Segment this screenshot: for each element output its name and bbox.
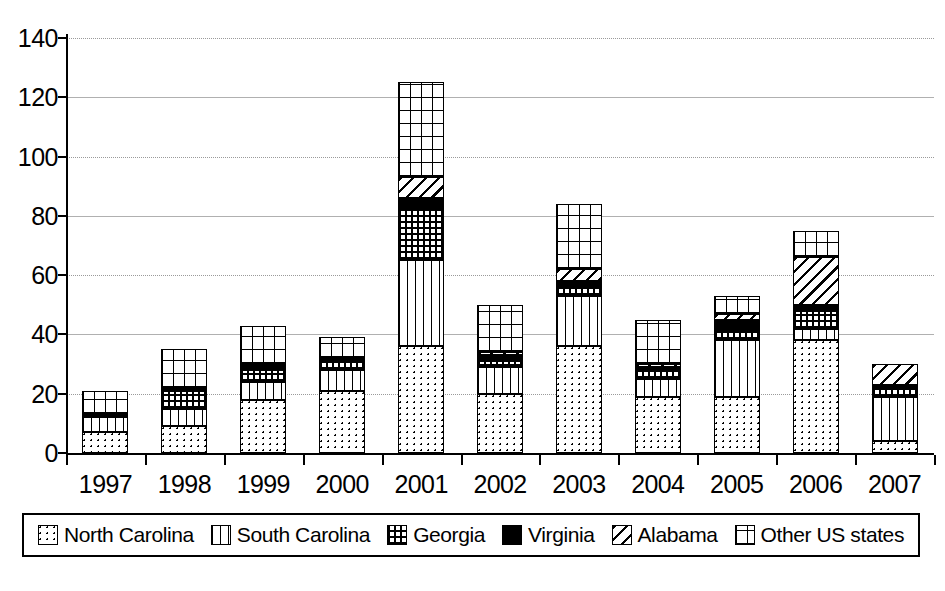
bar-segment-2002-south-carolina[interactable] bbox=[477, 367, 523, 394]
bar-segment-2001-south-carolina[interactable] bbox=[398, 260, 444, 346]
y-axis-label-140: 140 bbox=[18, 24, 58, 53]
bar-segment-2003-north-carolina[interactable] bbox=[556, 346, 602, 453]
bar-segment-1999-other-us-states[interactable] bbox=[240, 326, 286, 365]
legend-item-south-carolina[interactable]: South Carolina bbox=[211, 523, 370, 547]
bar-segment-1999-virginia[interactable] bbox=[240, 364, 286, 370]
bar-segment-2000-other-us-states[interactable] bbox=[319, 337, 365, 358]
y-axis-label-20: 20 bbox=[31, 379, 58, 408]
legend-label: Georgia bbox=[413, 523, 485, 547]
bar-segment-1997-north-carolina[interactable] bbox=[82, 432, 128, 453]
bar-segment-2005-north-carolina[interactable] bbox=[714, 397, 760, 453]
bar-segment-2002-other-us-states[interactable] bbox=[477, 305, 523, 352]
x-axis-label-2005: 2005 bbox=[710, 470, 763, 499]
bar-group-2002[interactable] bbox=[477, 305, 523, 453]
legend-item-virginia[interactable]: Virginia bbox=[502, 523, 594, 547]
x-axis-tick-1 bbox=[145, 455, 147, 465]
bar-segment-2004-north-carolina[interactable] bbox=[635, 397, 681, 453]
x-axis-label-2001: 2001 bbox=[394, 470, 447, 499]
bar-segment-1998-georgia[interactable] bbox=[161, 391, 207, 409]
y-axis-tick-60 bbox=[58, 274, 67, 276]
bar-segment-2004-other-us-states[interactable] bbox=[635, 320, 681, 364]
bar-segment-2002-north-carolina[interactable] bbox=[477, 394, 523, 453]
bar-segment-2002-virginia[interactable] bbox=[477, 355, 523, 361]
legend-item-other-us-states[interactable]: Other US states bbox=[735, 523, 904, 547]
bar-segment-2006-other-us-states[interactable] bbox=[793, 231, 839, 258]
bar-group-2006[interactable] bbox=[793, 231, 839, 453]
bar-segment-2005-south-carolina[interactable] bbox=[714, 340, 760, 396]
bar-group-2005[interactable] bbox=[714, 296, 760, 453]
y-axis-label-80: 80 bbox=[31, 201, 58, 230]
bar-segment-1999-north-carolina[interactable] bbox=[240, 400, 286, 453]
bar-segment-1997-virginia[interactable] bbox=[82, 414, 128, 417]
bar-segment-1998-north-carolina[interactable] bbox=[161, 426, 207, 453]
bar-segment-1998-other-us-states[interactable] bbox=[161, 349, 207, 388]
bar-segment-2003-other-us-states[interactable] bbox=[556, 204, 602, 269]
bar-segment-2007-georgia[interactable] bbox=[872, 388, 918, 397]
legend-item-alabama[interactable]: Alabama bbox=[612, 523, 718, 547]
bar-segment-2003-south-carolina[interactable] bbox=[556, 296, 602, 346]
bar-series-container bbox=[66, 38, 934, 453]
bar-segment-1997-other-us-states[interactable] bbox=[82, 391, 128, 415]
bar-group-2004[interactable] bbox=[635, 320, 681, 453]
bar-segment-2003-virginia[interactable] bbox=[556, 281, 602, 287]
y-axis-tick-120 bbox=[58, 96, 67, 98]
bar-segment-1998-virginia[interactable] bbox=[161, 388, 207, 391]
bar-segment-2006-alabama[interactable] bbox=[793, 257, 839, 304]
x-axis-tick-8 bbox=[697, 455, 699, 465]
x-axis-label-2002: 2002 bbox=[473, 470, 526, 499]
bar-segment-2006-south-carolina[interactable] bbox=[793, 329, 839, 341]
x-axis-label-1997: 1997 bbox=[79, 470, 132, 499]
bar-segment-2000-georgia[interactable] bbox=[319, 361, 365, 370]
bar-segment-2004-alabama[interactable] bbox=[635, 364, 681, 367]
bar-segment-2004-georgia[interactable] bbox=[635, 370, 681, 379]
bar-segment-2003-georgia[interactable] bbox=[556, 287, 602, 296]
bar-segment-1999-south-carolina[interactable] bbox=[240, 382, 286, 400]
legend-item-georgia[interactable]: Georgia bbox=[387, 523, 485, 547]
bar-group-2007[interactable] bbox=[872, 364, 918, 453]
bar-segment-2000-north-carolina[interactable] bbox=[319, 391, 365, 453]
stacked-bar-chart: 020406080100120140 199719981999200020012… bbox=[0, 0, 945, 470]
bar-segment-2004-south-carolina[interactable] bbox=[635, 379, 681, 397]
x-axis-tick-9 bbox=[776, 455, 778, 465]
x-axis-tick-4 bbox=[382, 455, 384, 465]
bar-segment-2001-georgia[interactable] bbox=[398, 210, 444, 260]
bar-segment-2001-alabama[interactable] bbox=[398, 177, 444, 198]
bar-segment-2001-north-carolina[interactable] bbox=[398, 346, 444, 453]
x-axis-label-2003: 2003 bbox=[552, 470, 605, 499]
y-axis-tick-100 bbox=[58, 156, 67, 158]
bar-segment-2005-other-us-states[interactable] bbox=[714, 296, 760, 314]
bar-segment-2007-alabama[interactable] bbox=[872, 364, 918, 385]
bar-group-1999[interactable] bbox=[240, 326, 286, 453]
bar-group-2003[interactable] bbox=[556, 204, 602, 453]
bar-segment-2002-georgia[interactable] bbox=[477, 361, 523, 367]
grid-coarse-swatch bbox=[735, 525, 755, 545]
bar-segment-1998-south-carolina[interactable] bbox=[161, 409, 207, 427]
bar-segment-2006-north-carolina[interactable] bbox=[793, 340, 839, 453]
bar-group-1998[interactable] bbox=[161, 349, 207, 453]
bar-segment-2005-alabama[interactable] bbox=[714, 314, 760, 320]
x-axis-tick-6 bbox=[539, 455, 541, 465]
bar-segment-2006-georgia[interactable] bbox=[793, 311, 839, 329]
y-axis-label-0: 0 bbox=[45, 439, 58, 468]
bar-segment-2006-virginia[interactable] bbox=[793, 305, 839, 311]
bar-segment-2004-virginia[interactable] bbox=[635, 367, 681, 370]
bar-group-1997[interactable] bbox=[82, 391, 128, 453]
bar-segment-2003-alabama[interactable] bbox=[556, 269, 602, 281]
bar-segment-2001-other-us-states[interactable] bbox=[398, 82, 444, 177]
bar-segment-2002-alabama[interactable] bbox=[477, 352, 523, 355]
bar-segment-2000-south-carolina[interactable] bbox=[319, 370, 365, 391]
bar-segment-1997-south-carolina[interactable] bbox=[82, 417, 128, 432]
bar-segment-2000-virginia[interactable] bbox=[319, 358, 365, 361]
bar-segment-2007-north-carolina[interactable] bbox=[872, 441, 918, 453]
bar-segment-2005-virginia[interactable] bbox=[714, 320, 760, 332]
bar-segment-2001-virginia[interactable] bbox=[398, 198, 444, 210]
bar-segment-1999-georgia[interactable] bbox=[240, 370, 286, 382]
bar-segment-2007-south-carolina[interactable] bbox=[872, 397, 918, 441]
legend-item-north-carolina[interactable]: North Carolina bbox=[38, 523, 194, 547]
y-axis-tick-20 bbox=[58, 393, 67, 395]
bar-segment-2005-georgia[interactable] bbox=[714, 331, 760, 340]
bar-group-2000[interactable] bbox=[319, 337, 365, 453]
bar-segment-2007-virginia[interactable] bbox=[872, 385, 918, 388]
legend-label: South Carolina bbox=[237, 523, 370, 547]
bar-group-2001[interactable] bbox=[398, 82, 444, 453]
